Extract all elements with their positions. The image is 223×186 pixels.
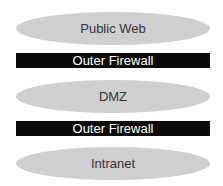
zone-dmz: DMZ (16, 80, 210, 113)
zone-label: DMZ (99, 89, 127, 104)
zone-label: Intranet (91, 156, 135, 171)
zone-intranet: Intranet (16, 147, 210, 180)
firewall-outer-1: Outer Firewall (16, 53, 210, 68)
firewall-label: Outer Firewall (73, 121, 154, 136)
firewall-outer-2: Outer Firewall (16, 121, 210, 136)
firewall-label: Outer Firewall (73, 53, 154, 68)
zone-public-web: Public Web (16, 12, 210, 45)
zone-label: Public Web (80, 21, 146, 36)
